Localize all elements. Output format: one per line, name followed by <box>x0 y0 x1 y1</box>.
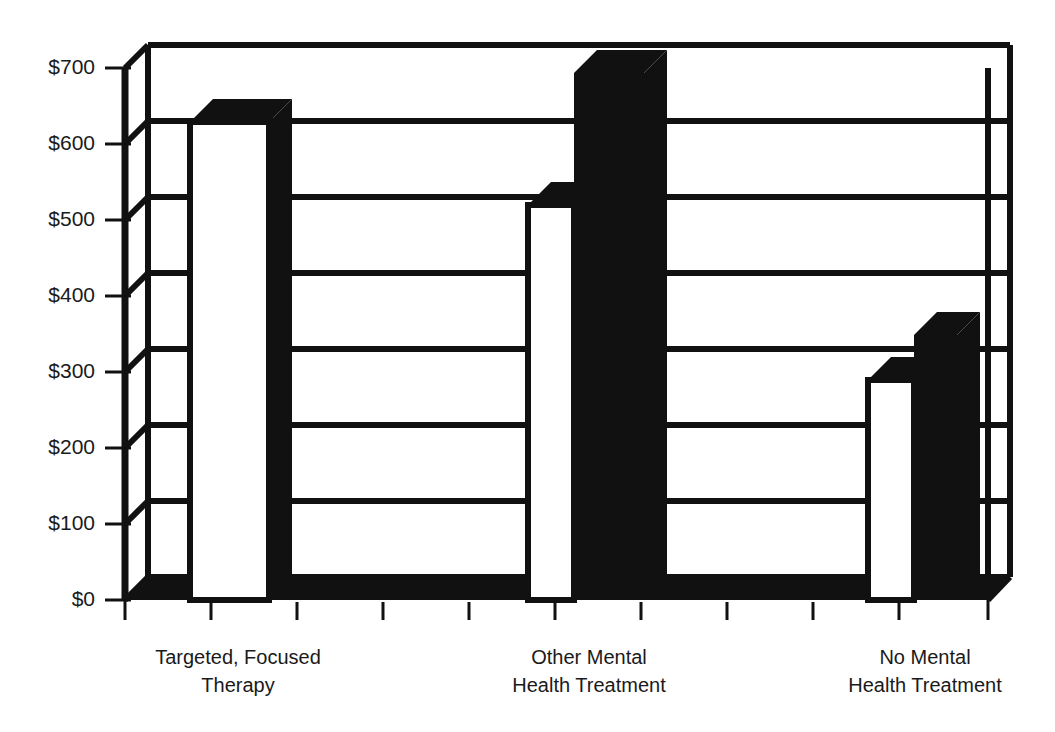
x-category-label-2-line2: Health Treatment <box>512 674 666 696</box>
y-tick-label-0: $0 <box>72 587 95 610</box>
y-tick-label-400: $400 <box>48 283 95 306</box>
y-tick-label-500: $500 <box>48 207 95 230</box>
plot-left-side-wall <box>125 45 148 600</box>
x-category-label-3-line1: No Mental <box>879 646 970 668</box>
x-axis-labels: Targeted, Focused Therapy Other Mental H… <box>155 646 1002 696</box>
x-category-label-2-line1: Other Mental <box>531 646 647 668</box>
y-tick-label-300: $300 <box>48 359 95 382</box>
chart-canvas: $700 $600 $500 $400 $300 $200 $100 $0 Ta… <box>0 0 1055 732</box>
x-category-label-1-line2: Therapy <box>201 674 274 696</box>
y-axis-labels: $700 $600 $500 $400 $300 $200 $100 $0 <box>48 55 95 610</box>
x-category-label-3-line2: Health Treatment <box>848 674 1002 696</box>
bar-targeted-focused-therapy[interactable] <box>190 99 292 600</box>
y-tick-label-100: $100 <box>48 511 95 534</box>
bar-chart: $700 $600 $500 $400 $300 $200 $100 $0 Ta… <box>0 0 1055 732</box>
x-category-label-1-line1: Targeted, Focused <box>155 646 321 668</box>
y-tick-label-200: $200 <box>48 435 95 458</box>
y-tick-label-600: $600 <box>48 131 95 154</box>
y-tick-label-700: $700 <box>48 55 95 78</box>
